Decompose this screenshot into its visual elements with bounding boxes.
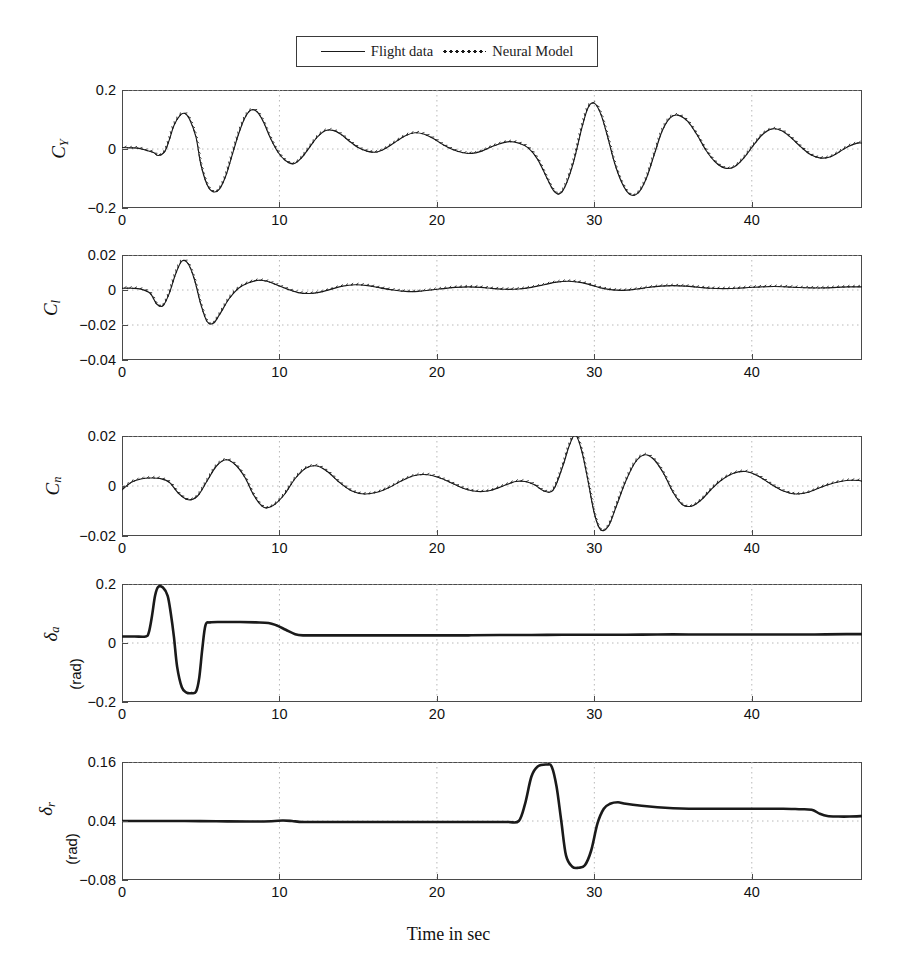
figure-root: Flight data Neural Model CY −0.200.20102… bbox=[0, 0, 897, 972]
axis-label-cl: Cl bbox=[40, 299, 64, 315]
y-tick-mark bbox=[122, 486, 128, 487]
x-tick-mark bbox=[594, 530, 595, 536]
x-tick-label: 20 bbox=[429, 707, 445, 722]
legend-entry-neural-model: Neural Model bbox=[442, 43, 573, 60]
x-tick-label: 0 bbox=[118, 707, 126, 722]
legend: Flight data Neural Model bbox=[296, 36, 598, 67]
y-tick-label: 0 bbox=[108, 636, 116, 651]
panel-cy-plot bbox=[122, 90, 862, 208]
x-tick-label: 0 bbox=[118, 885, 126, 900]
y-tick-mark bbox=[122, 149, 128, 150]
x-tick-mark bbox=[594, 354, 595, 360]
panel-delta-a-plot bbox=[122, 584, 862, 702]
x-tick-label: 30 bbox=[586, 707, 602, 722]
x-tick-label: 40 bbox=[744, 365, 760, 380]
y-tick-label: 0.02 bbox=[88, 429, 116, 444]
y-tick-mark bbox=[122, 290, 128, 291]
x-tick-mark bbox=[279, 530, 280, 536]
x-tick-label: 40 bbox=[744, 707, 760, 722]
x-tick-mark bbox=[752, 696, 753, 702]
y-tick-mark bbox=[122, 208, 128, 209]
x-tick-mark bbox=[752, 354, 753, 360]
x-tick-mark bbox=[279, 202, 280, 208]
y-tick-label: −0.02 bbox=[79, 318, 116, 333]
y-tick-label: 0.2 bbox=[96, 577, 116, 592]
x-tick-label: 0 bbox=[118, 365, 126, 380]
x-tick-mark bbox=[752, 530, 753, 536]
x-tick-label: 10 bbox=[271, 707, 287, 722]
x-tick-label: 10 bbox=[271, 541, 287, 556]
y-tick-mark bbox=[122, 255, 128, 256]
axis-units-delta-r: (rad) bbox=[63, 833, 80, 865]
x-tick-mark bbox=[279, 874, 280, 880]
y-tick-label: −0.08 bbox=[79, 873, 116, 888]
x-tick-label: 20 bbox=[429, 365, 445, 380]
panel-cy: CY −0.200.2010203040 bbox=[122, 90, 862, 208]
panel-cn: Cn −0.0200.02010203040 bbox=[122, 436, 862, 536]
x-tick-label: 10 bbox=[271, 365, 287, 380]
y-tick-mark bbox=[122, 643, 128, 644]
x-tick-label: 10 bbox=[271, 885, 287, 900]
y-tick-label: −0.2 bbox=[87, 201, 116, 216]
x-tick-label: 20 bbox=[429, 213, 445, 228]
x-tick-mark bbox=[437, 696, 438, 702]
x-tick-mark bbox=[437, 530, 438, 536]
x-tick-mark bbox=[279, 354, 280, 360]
x-tick-label: 40 bbox=[744, 541, 760, 556]
x-axis-title: Time in sec bbox=[0, 924, 897, 945]
x-tick-label: 20 bbox=[429, 541, 445, 556]
x-tick-label: 30 bbox=[586, 885, 602, 900]
axis-label-delta-a: δa bbox=[40, 626, 64, 641]
x-tick-mark bbox=[122, 530, 123, 536]
x-tick-label: 10 bbox=[271, 213, 287, 228]
y-tick-mark bbox=[122, 90, 128, 91]
dotted-line-swatch-icon bbox=[442, 50, 486, 53]
legend-label-flight-data: Flight data bbox=[371, 43, 433, 60]
legend-entry-flight-data: Flight data bbox=[321, 43, 433, 60]
x-tick-mark bbox=[594, 202, 595, 208]
y-tick-label: 0 bbox=[108, 142, 116, 157]
x-tick-label: 30 bbox=[586, 213, 602, 228]
x-tick-mark bbox=[594, 874, 595, 880]
axis-label-cy: CY bbox=[48, 139, 72, 159]
y-tick-mark bbox=[122, 821, 128, 822]
x-tick-mark bbox=[122, 202, 123, 208]
legend-label-neural-model: Neural Model bbox=[492, 43, 573, 60]
solid-line-swatch-icon bbox=[321, 51, 365, 52]
y-tick-label: −0.04 bbox=[79, 353, 116, 368]
x-tick-mark bbox=[752, 874, 753, 880]
y-tick-mark bbox=[122, 584, 128, 585]
y-tick-label: 0 bbox=[108, 479, 116, 494]
y-tick-label: −0.02 bbox=[79, 529, 116, 544]
x-tick-label: 40 bbox=[744, 885, 760, 900]
x-tick-mark bbox=[122, 696, 123, 702]
y-tick-mark bbox=[122, 360, 128, 361]
axis-units-delta-a: (rad) bbox=[67, 658, 84, 690]
y-tick-label: 0 bbox=[108, 283, 116, 298]
x-tick-mark bbox=[122, 354, 123, 360]
x-tick-label: 30 bbox=[586, 365, 602, 380]
y-tick-mark bbox=[122, 702, 128, 703]
x-tick-label: 0 bbox=[118, 541, 126, 556]
x-tick-mark bbox=[594, 696, 595, 702]
panel-cl: Cl −0.04−0.0200.02010203040 bbox=[122, 255, 862, 360]
x-tick-label: 30 bbox=[586, 541, 602, 556]
x-tick-label: 0 bbox=[118, 213, 126, 228]
x-tick-mark bbox=[437, 874, 438, 880]
y-tick-label: 0.04 bbox=[88, 814, 116, 829]
panel-delta-a: δa (rad) −0.200.2010203040 bbox=[122, 584, 862, 702]
panel-delta-r-plot bbox=[122, 762, 862, 880]
x-tick-label: 40 bbox=[744, 213, 760, 228]
x-tick-mark bbox=[437, 354, 438, 360]
y-tick-mark bbox=[122, 762, 128, 763]
y-tick-mark bbox=[122, 536, 128, 537]
y-tick-label: −0.2 bbox=[87, 695, 116, 710]
panel-cl-plot bbox=[122, 255, 862, 360]
panel-delta-r: δr (rad) −0.080.040.16010203040 bbox=[122, 762, 862, 880]
y-tick-label: 0.2 bbox=[96, 83, 116, 98]
y-tick-label: 0.02 bbox=[88, 248, 116, 263]
y-tick-mark bbox=[122, 436, 128, 437]
axis-label-cn: Cn bbox=[42, 477, 66, 496]
y-tick-label: 0.16 bbox=[88, 755, 116, 770]
x-tick-mark bbox=[437, 202, 438, 208]
